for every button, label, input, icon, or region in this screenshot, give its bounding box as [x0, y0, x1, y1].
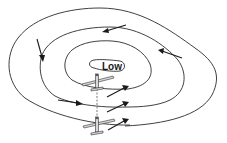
upper-aircraft [82, 74, 114, 91]
wind-arrow-middle-right [107, 101, 129, 112]
wind-arrow-right [158, 48, 182, 58]
wind-arrow-top [102, 25, 126, 33]
low-label: Low [102, 61, 122, 72]
low-pressure-diagram: Low [0, 0, 227, 143]
wind-arrow-upper-right [107, 85, 129, 97]
lower-aircraft [83, 117, 115, 135]
wind-arrow-left-middle [58, 100, 83, 106]
